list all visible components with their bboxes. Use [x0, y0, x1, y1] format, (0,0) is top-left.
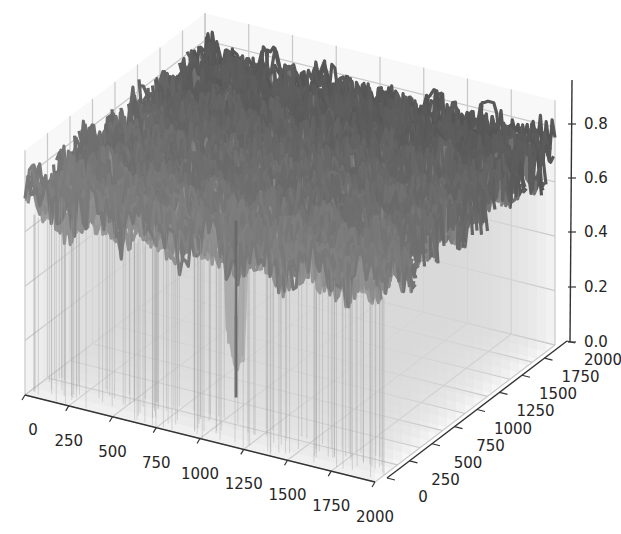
surface-plot-figure: 0250500750100012501500175020000250500750… — [0, 0, 621, 534]
plot-canvas: 0250500750100012501500175020000250500750… — [0, 0, 621, 534]
y-tick-label: 250 — [431, 471, 460, 489]
x-tick-label: 1500 — [268, 486, 306, 504]
x-tick-label: 500 — [98, 443, 127, 461]
x-tick-label: 1000 — [181, 465, 219, 483]
x-tick-label: 1750 — [312, 497, 350, 515]
x-tick-label: 0 — [28, 421, 38, 439]
y-tick-label: 2000 — [584, 351, 621, 369]
z-axis-line — [570, 80, 572, 342]
z-tick-label: 0.6 — [584, 169, 608, 187]
x-tick-label: 2000 — [356, 508, 394, 526]
z-tick-label: 0.2 — [584, 278, 608, 296]
z-tick-label: 0.4 — [584, 223, 608, 241]
y-tick-label: 1750 — [561, 368, 599, 386]
y-tick-label: 1000 — [494, 420, 532, 438]
y-tick-label: 500 — [454, 454, 483, 472]
x-tick-label: 250 — [54, 432, 83, 450]
z-tick-label: 0.8 — [584, 115, 608, 133]
y-tick-label: 0 — [418, 488, 428, 506]
x-tick-label: 750 — [142, 454, 171, 472]
x-tick-label: 1250 — [225, 475, 263, 493]
y-tick-label: 1250 — [516, 402, 554, 420]
y-tick-label: 750 — [476, 437, 505, 455]
z-tick-label: 0.0 — [584, 333, 608, 351]
y-tick-label: 1500 — [539, 385, 577, 403]
